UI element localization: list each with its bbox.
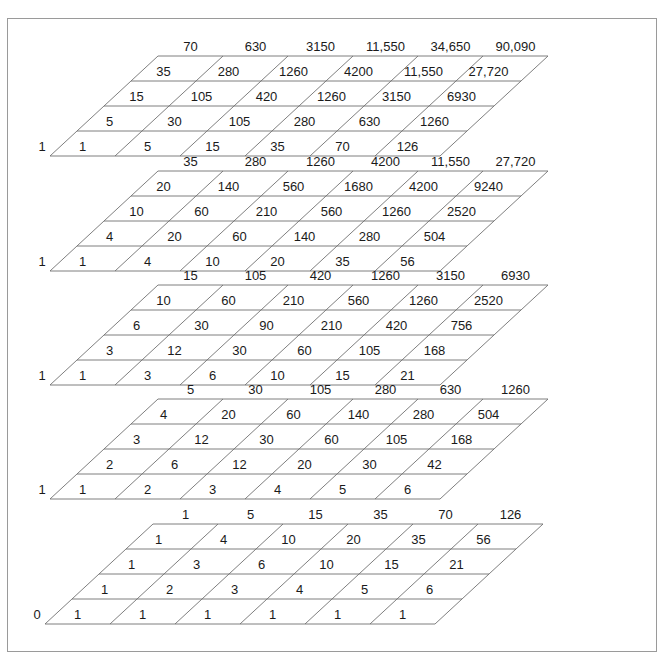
lattice-cell-value: 126 xyxy=(500,507,522,522)
lattice-cell-value: 90,090 xyxy=(496,39,536,54)
lattice-cell-value: 4 xyxy=(106,229,113,244)
lattice-cell-value: 21 xyxy=(400,368,414,383)
lattice-cell-value: 30 xyxy=(194,318,208,333)
lattice-cell-value: 1260 xyxy=(420,114,449,129)
lattice-cell-value: 280 xyxy=(359,229,381,244)
lattice-cell-value: 1 xyxy=(101,582,108,597)
lattice-cell-value: 4 xyxy=(296,582,303,597)
lattice-cell-value: 4200 xyxy=(371,154,400,169)
lattice-cell-value: 1680 xyxy=(344,179,373,194)
lattice-cell-value: 30 xyxy=(167,114,181,129)
lattice-cell-value: 1 xyxy=(79,482,86,497)
lattice-cell-value: 280 xyxy=(245,154,267,169)
lattice-cell-value: 210 xyxy=(283,293,305,308)
lattice-cell-value: 90 xyxy=(259,318,273,333)
lattice-cell-value: 1 xyxy=(79,368,86,383)
lattice-cell-value: 6 xyxy=(209,368,216,383)
lattice-cell-value: 1 xyxy=(74,607,81,622)
lattice-cell-value: 15 xyxy=(129,89,143,104)
lattice-cell-value: 1 xyxy=(79,254,86,269)
lattice-cell-value: 6 xyxy=(133,318,140,333)
lattice-cell-value: 11,550 xyxy=(366,39,405,54)
lattice-cell-value: 10 xyxy=(281,532,295,547)
lattice-cell-value: 15 xyxy=(384,557,398,572)
lattice-cell-value: 2 xyxy=(166,582,173,597)
lattice-cell-value: 420 xyxy=(310,268,332,283)
lattice-cell-value: 3 xyxy=(133,432,140,447)
lattice-cell-value: 35 xyxy=(373,507,387,522)
lattice-cell-value: 105 xyxy=(229,114,251,129)
lattice-cell-value: 11,550 xyxy=(404,64,443,79)
lattice-cell-value: 6 xyxy=(404,482,411,497)
lattice-cell-value: 105 xyxy=(359,343,381,358)
lattice-cell-value: 5 xyxy=(339,482,346,497)
lattice-cell-value: 1260 xyxy=(279,64,308,79)
lattice-cell-value: 168 xyxy=(451,432,473,447)
lattice-cell-value: 210 xyxy=(321,318,343,333)
lattice-cell-value: 10 xyxy=(270,368,284,383)
lattice-cell-value: 5 xyxy=(361,582,368,597)
lattice-cell-value: 3 xyxy=(106,343,113,358)
lattice-cell-value: 6930 xyxy=(447,89,476,104)
lattice-cell-value: 15 xyxy=(335,368,349,383)
lattice-cell-value: 60 xyxy=(232,229,246,244)
lattice-cell-value: 1260 xyxy=(306,154,335,169)
lattice-cell-value: 3 xyxy=(193,557,200,572)
lattice-cell-value: 27,720 xyxy=(469,64,509,79)
lattice-cell-value: 560 xyxy=(348,293,370,308)
lattice-cell-value: 5 xyxy=(144,139,151,154)
lattice-cell-value: 560 xyxy=(321,204,343,219)
lattice-cell-value: 140 xyxy=(348,407,370,422)
lattice-cell-value: 560 xyxy=(283,179,305,194)
lattice-cell-value: 60 xyxy=(221,293,235,308)
lattice-cell-value: 280 xyxy=(413,407,435,422)
lattice-cell-value: 35 xyxy=(335,254,349,269)
lattice-cell-value: 56 xyxy=(400,254,414,269)
lattice-cell-value: 1 xyxy=(128,557,135,572)
lattice-cell-value: 4200 xyxy=(409,179,438,194)
lattice-cell-value: 30 xyxy=(362,457,376,472)
lattice-origin-value: 1 xyxy=(38,254,45,269)
lattice-cell-value: 20 xyxy=(156,179,170,194)
lattice-cell-value: 6 xyxy=(171,457,178,472)
lattice-cell-value: 70 xyxy=(183,39,197,54)
lattice-cell-value: 20 xyxy=(221,407,235,422)
lattice-cell-value: 105 xyxy=(386,432,408,447)
lattice-cell-value: 420 xyxy=(256,89,278,104)
lattice-cell-value: 1260 xyxy=(371,268,400,283)
lattice-cell-value: 630 xyxy=(245,39,267,54)
lattice-cell-value: 3 xyxy=(144,368,151,383)
lattice-cell-value: 60 xyxy=(194,204,208,219)
lattice-cell-value: 504 xyxy=(478,407,500,422)
lattice-cell-value: 2520 xyxy=(474,293,503,308)
lattice-cell-value: 168 xyxy=(424,343,446,358)
lattice-cell-value: 3 xyxy=(209,482,216,497)
lattice-cell-value: 42 xyxy=(427,457,441,472)
lattice-origin-value: 0 xyxy=(33,607,40,622)
lattice-cell-value: 35 xyxy=(411,532,425,547)
lattice-cell-value: 15 xyxy=(308,507,322,522)
lattice-cell-value: 1 xyxy=(204,607,211,622)
lattice-cell-value: 35 xyxy=(156,64,170,79)
lattice-cell-value: 30 xyxy=(248,382,262,397)
lattice-cell-value: 1 xyxy=(334,607,341,622)
lattice-cell-value: 70 xyxy=(335,139,349,154)
lattice-cell-value: 56 xyxy=(476,532,490,547)
lattice-cell-value: 6930 xyxy=(501,268,530,283)
lattice-cell-value: 280 xyxy=(218,64,240,79)
lattice-cell-value: 6 xyxy=(258,557,265,572)
lattice-cell-value: 756 xyxy=(451,318,473,333)
lattice-cell-value: 30 xyxy=(259,432,273,447)
lattice-cell-value: 280 xyxy=(294,114,316,129)
lattice-cell-value: 5 xyxy=(187,382,194,397)
lattice-cell-value: 20 xyxy=(297,457,311,472)
lattice-cell-value: 1 xyxy=(155,532,162,547)
lattice-cell-value: 60 xyxy=(324,432,338,447)
lattice-cell-value: 1 xyxy=(269,607,276,622)
lattice-cell-value: 20 xyxy=(167,229,181,244)
lattice-cell-value: 10 xyxy=(156,293,170,308)
lattice-cell-value: 4 xyxy=(144,254,151,269)
lattice-cell-value: 2 xyxy=(106,457,113,472)
lattice-cell-value: 140 xyxy=(294,229,316,244)
lattice-cell-value: 1260 xyxy=(317,89,346,104)
